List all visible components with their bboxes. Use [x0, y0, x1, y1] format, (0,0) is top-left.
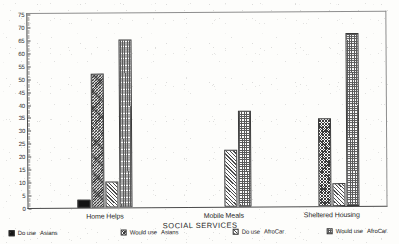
- legend-swatch: [233, 229, 239, 235]
- x-axis-category-label: Sheltered Housing: [304, 211, 360, 218]
- legend-item: Would useAfroCar: [327, 228, 387, 234]
- bar-group: [196, 13, 252, 207]
- plot-area: 051015202530354045505560657075: [26, 11, 387, 209]
- legend-swatch: [9, 230, 15, 236]
- x-axis-category-label: Mobile Meals: [204, 212, 244, 219]
- y-axis-tick-label: 15: [19, 167, 28, 173]
- y-axis-tick-label: 25: [19, 141, 28, 147]
- bar: [318, 118, 332, 206]
- y-axis-tick-mark: [29, 209, 32, 210]
- y-axis-tick-label: 50: [18, 77, 27, 83]
- y-axis-tick-label: 30: [19, 128, 28, 134]
- bar: [78, 200, 91, 208]
- legend-label: Would useAsians: [130, 229, 179, 235]
- bar: [238, 111, 252, 207]
- legend-item: Do useAsians: [9, 230, 58, 236]
- y-axis-tick-label: 20: [19, 154, 28, 160]
- bar: [106, 182, 119, 208]
- legend-label-action: Do use: [18, 230, 36, 236]
- legend-label-group: AfroCar: [264, 228, 284, 234]
- bar-group: [304, 12, 360, 206]
- legend-label: Do useAsians: [18, 230, 58, 236]
- legend-label-group: AfroCar: [367, 228, 387, 234]
- x-axis-category-labels: Home HelpsMobile MealsSheltered Housing: [0, 0, 398, 1]
- legend-label-action: Would use: [336, 228, 363, 234]
- chart-legend: Do useAsiansWould useAsiansDo useAfroCar…: [9, 231, 392, 233]
- legend-label-action: Would use: [130, 229, 157, 235]
- legend-item: Do useAfroCar: [233, 228, 284, 234]
- legend-swatch: [327, 228, 333, 234]
- bar: [91, 73, 105, 208]
- x-axis-category-label: Home Helps: [86, 212, 124, 219]
- bar-series-container: [27, 12, 386, 208]
- y-axis-tick-label: 10: [19, 180, 28, 186]
- bar: [119, 39, 133, 207]
- legend-swatch: [121, 229, 127, 235]
- y-axis-tick-label: 45: [19, 90, 28, 96]
- legend-label-action: Do use: [242, 229, 260, 235]
- y-axis-tick-label: 75: [18, 12, 27, 18]
- bar-group: [77, 13, 133, 207]
- legend-item: Would useAsians: [121, 229, 179, 235]
- y-axis-tick-label: 55: [18, 64, 27, 70]
- y-axis-tick-label: 35: [19, 116, 28, 122]
- y-axis-tick-label: 40: [19, 103, 28, 109]
- bar: [224, 150, 237, 207]
- legend-label-group: Asians: [40, 230, 57, 236]
- bar: [346, 33, 360, 206]
- y-axis-tick-label: 60: [18, 51, 27, 57]
- legend-label: Would useAfroCar: [336, 228, 387, 234]
- bar: [333, 183, 346, 206]
- legend-label: Do useAfroCar: [242, 228, 284, 234]
- y-axis-tick-label: 65: [18, 38, 27, 44]
- legend-label-group: Asians: [161, 229, 178, 235]
- y-axis-tick-label: 70: [18, 25, 27, 31]
